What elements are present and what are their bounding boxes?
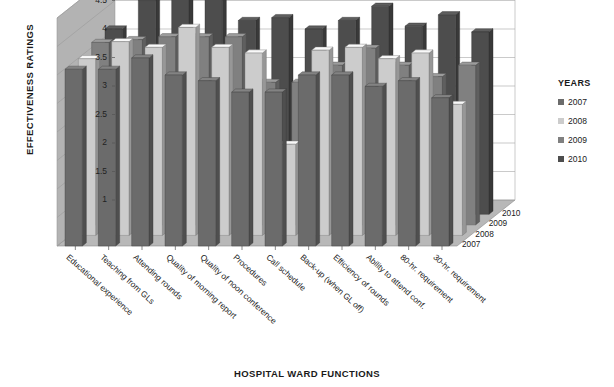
bar-2007-8 (332, 72, 353, 246)
legend-item-2008[interactable]: 2008 (558, 116, 614, 126)
bar-2007-5 (232, 89, 253, 246)
bar-2007-7 (298, 72, 319, 246)
depth-axis-label-2007: 2007 (462, 239, 480, 249)
y-tick-label: 3 (85, 80, 107, 90)
legend-swatch-2009 (558, 137, 564, 143)
bar-2007-2 (132, 55, 153, 246)
legend-label-2010: 2010 (568, 154, 587, 164)
bar-2007-11 (432, 95, 453, 246)
depth-axis-label-2009: 2009 (489, 218, 507, 228)
y-tick-label: 4.5 (85, 0, 107, 5)
chart-figure: EFFECTIVENESS RATINGS HOSPITAL WARD FUNC… (0, 0, 614, 387)
bar-2007-9 (365, 83, 386, 246)
legend-label-2009: 2009 (568, 135, 587, 145)
y-tick-label: 2.5 (85, 109, 107, 119)
legend-swatch-2007 (558, 99, 564, 105)
legend-item-2007[interactable]: 2007 (558, 97, 614, 107)
depth-axis-label-2008: 2008 (475, 229, 493, 239)
legend-title: YEARS (558, 78, 614, 88)
legend-swatch-2008 (558, 118, 564, 124)
bar-2007-4 (198, 78, 219, 246)
legend: YEARS 2007 2008 2009 2010 (558, 78, 614, 173)
y-tick-label: 4 (85, 23, 107, 33)
legend-swatch-2010 (558, 156, 564, 162)
y-tick-label: 3.5 (85, 52, 107, 62)
legend-label-2008: 2008 (568, 116, 587, 126)
bar-2007-0 (65, 66, 86, 246)
y-tick-label: 1.5 (85, 166, 107, 176)
bar-2007-6 (265, 89, 286, 246)
y-tick-label: 1 (85, 194, 107, 204)
depth-axis-label-2010: 2010 (502, 208, 520, 218)
legend-item-2009[interactable]: 2009 (558, 135, 614, 145)
bar-2007-1 (98, 66, 119, 246)
bar-2007-10 (398, 78, 419, 246)
bar-2007-3 (165, 72, 186, 246)
legend-label-2007: 2007 (568, 97, 587, 107)
legend-item-2010[interactable]: 2010 (558, 154, 614, 164)
y-tick-label: 2 (85, 137, 107, 147)
